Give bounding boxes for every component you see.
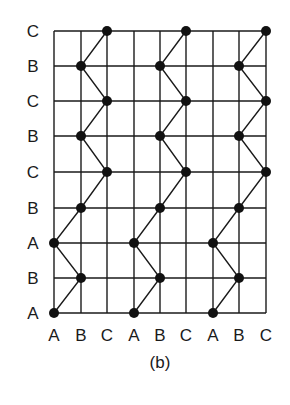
node-dot [102,26,112,36]
node-dot [261,26,271,36]
row-label: A [27,304,39,323]
node-dot [155,61,165,71]
row-labels: CBCBCBABA [27,22,39,323]
row-label: B [27,127,38,146]
node-dot [208,238,218,248]
node-dot [234,273,244,283]
column-label: A [207,326,219,345]
figure-caption: (b) [150,353,171,372]
row-label: B [27,57,38,76]
column-label: C [101,326,113,345]
column-label: B [233,326,244,345]
node-dot [234,131,244,141]
node-dot [208,308,218,318]
node-dot [76,273,86,283]
node-dot [129,238,139,248]
column-label: A [128,326,140,345]
node-dot [181,26,191,36]
column-label: C [180,326,192,345]
row-label: C [27,163,39,182]
node-dot [234,203,244,213]
node-dot [181,96,191,106]
node-dot [102,96,112,106]
node-dot [155,203,165,213]
node-dot [49,238,59,248]
node-dot [261,96,271,106]
column-label: A [48,326,60,345]
column-label: B [75,326,86,345]
node-dot [155,273,165,283]
node-dot [181,167,191,177]
row-label: C [27,92,39,111]
column-label: B [154,326,165,345]
node-dot [261,167,271,177]
node-dot [234,61,244,71]
node-dot [102,167,112,177]
column-labels: ABCABCABC [48,326,272,345]
row-label: C [27,22,39,41]
stacking-sequence-diagram: CBCBCBABA ABCABCABC (b) [0,0,290,405]
row-label: B [27,269,38,288]
row-label: A [27,234,39,253]
row-label: B [27,199,38,218]
node-dot [76,131,86,141]
node-dot [49,308,59,318]
node-dot [129,308,139,318]
node-dot [76,61,86,71]
column-label: C [260,326,272,345]
node-dot [76,203,86,213]
node-dot [155,131,165,141]
